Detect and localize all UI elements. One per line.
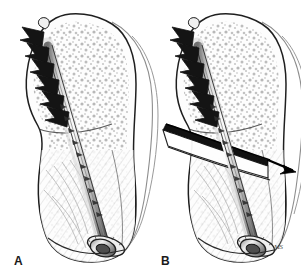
artist-signature: MS [274, 243, 283, 251]
medical-illustration-figure [0, 0, 301, 280]
panel-label-a: A [14, 255, 23, 267]
panel-label-b: B [161, 255, 170, 267]
